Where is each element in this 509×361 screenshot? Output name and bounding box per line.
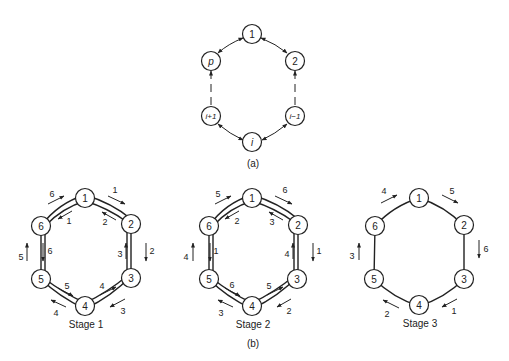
- svg-text:3: 3: [128, 273, 134, 284]
- svg-text:1: 1: [249, 193, 255, 204]
- svg-text:p: p: [207, 56, 214, 67]
- node-1: 1: [243, 25, 262, 44]
- svg-text:1: 1: [82, 193, 88, 204]
- svg-text:6: 6: [47, 246, 52, 256]
- svg-text:5: 5: [64, 281, 69, 291]
- node-5: 5: [200, 270, 219, 289]
- node-1: 1: [243, 189, 262, 208]
- svg-text:6: 6: [282, 185, 287, 195]
- node-2: 2: [455, 216, 474, 235]
- svg-text:1: 1: [112, 185, 117, 195]
- arrow-outer-1-2: [275, 196, 292, 204]
- svg-text:5: 5: [38, 274, 44, 285]
- svg-text:5: 5: [206, 274, 212, 285]
- ring-single: [374, 198, 464, 306]
- svg-text:5: 5: [18, 252, 23, 262]
- svg-text:6: 6: [483, 244, 488, 254]
- arrow-outer-6-1: [381, 195, 397, 203]
- svg-text:6: 6: [206, 221, 212, 232]
- svg-text:3: 3: [269, 217, 274, 227]
- svg-text:4: 4: [416, 300, 422, 311]
- svg-text:3: 3: [120, 306, 125, 316]
- node-3: 3: [122, 269, 141, 288]
- node-4: 4: [243, 297, 262, 316]
- svg-text:4: 4: [249, 301, 255, 312]
- node-i-minus-1: i−1: [286, 107, 305, 126]
- node-2: 2: [289, 216, 308, 235]
- svg-text:5: 5: [266, 281, 271, 291]
- figure-a: 1 2 i−1 i i+1 p (a): [202, 25, 305, 170]
- arrow-outer-4-5: [218, 300, 233, 307]
- svg-text:3: 3: [218, 308, 223, 318]
- svg-text:3: 3: [117, 249, 122, 259]
- node-i-plus-1: i+1: [202, 107, 221, 126]
- svg-text:1: 1: [213, 246, 218, 256]
- node-6: 6: [200, 217, 219, 236]
- svg-text:4: 4: [284, 249, 289, 259]
- svg-text:2: 2: [292, 56, 298, 67]
- figure-canvas: 1 2 i−1 i i+1 p (a) 1 2 3 4 5 6 1 2 3 4 …: [0, 0, 509, 361]
- node-5: 5: [32, 270, 51, 289]
- svg-text:5: 5: [371, 274, 377, 285]
- edge-i-1-i: [262, 124, 287, 140]
- svg-text:3: 3: [349, 251, 354, 261]
- svg-text:5: 5: [215, 189, 220, 199]
- svg-text:4: 4: [82, 301, 88, 312]
- stage-1: 1 2 3 4 5 6 1 2 3 4 5 6 2 3 4 5 6 1 Stag…: [18, 185, 154, 330]
- svg-text:3: 3: [294, 274, 300, 285]
- svg-text:2: 2: [384, 309, 389, 319]
- caption-a: (a): [247, 158, 259, 169]
- arrow-outer-1-2: [108, 196, 125, 204]
- svg-text:4: 4: [381, 186, 386, 196]
- svg-text:2: 2: [234, 216, 239, 226]
- stage-3: 1 2 3 4 5 6 5 6 1 2 3 4 Stage 3: [349, 186, 488, 329]
- svg-text:2: 2: [128, 219, 134, 230]
- svg-text:i+1: i+1: [206, 112, 217, 121]
- node-4: 4: [410, 296, 429, 315]
- svg-text:2: 2: [461, 220, 467, 231]
- svg-text:6: 6: [372, 221, 378, 232]
- svg-text:2: 2: [149, 246, 154, 256]
- node-2: 2: [122, 215, 141, 234]
- node-5: 5: [365, 270, 384, 289]
- node-1: 1: [410, 189, 429, 208]
- arrow-outer-4-5: [383, 300, 399, 308]
- node-1: 1: [76, 189, 95, 208]
- svg-text:2: 2: [286, 306, 291, 316]
- node-3: 3: [455, 270, 474, 289]
- stage-2: 1 2 3 4 5 6 6 1 2 3 4 5 3 4 5 6 1 2 Stag…: [183, 185, 321, 330]
- arrow-outer-4-5: [51, 300, 66, 307]
- stage-2-label: Stage 2: [236, 319, 271, 330]
- svg-text:2: 2: [295, 220, 301, 231]
- svg-text:1: 1: [249, 29, 255, 40]
- arrow-outer-1-2: [442, 195, 458, 203]
- node-4: 4: [76, 297, 95, 316]
- edge-i+1-i: [218, 124, 243, 140]
- svg-text:1: 1: [66, 216, 71, 226]
- svg-text:4: 4: [53, 308, 58, 318]
- svg-text:i−1: i−1: [290, 112, 301, 121]
- svg-text:5: 5: [449, 186, 454, 196]
- node-6: 6: [366, 217, 385, 236]
- svg-text:3: 3: [461, 274, 467, 285]
- svg-text:1: 1: [316, 246, 321, 256]
- stage-3-label: Stage 3: [403, 318, 438, 329]
- svg-text:6: 6: [229, 280, 234, 290]
- edge-1-p: [218, 38, 243, 53]
- svg-text:2: 2: [102, 217, 107, 227]
- svg-text:4: 4: [99, 281, 104, 291]
- svg-text:1: 1: [451, 306, 456, 316]
- node-i: i: [243, 133, 262, 152]
- svg-text:6: 6: [38, 221, 44, 232]
- stage-1-label: Stage 1: [69, 319, 104, 330]
- edge-1-2: [261, 38, 287, 53]
- svg-text:6: 6: [49, 189, 54, 199]
- node-6: 6: [32, 217, 51, 236]
- node-2: 2: [286, 52, 305, 71]
- svg-text:4: 4: [183, 252, 188, 262]
- svg-text:1: 1: [416, 193, 422, 204]
- node-3: 3: [288, 270, 307, 289]
- node-p: p: [202, 52, 221, 71]
- caption-b: (b): [247, 338, 259, 349]
